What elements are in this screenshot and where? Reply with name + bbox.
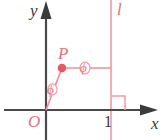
angle-phi-origin-label: ϕ xyxy=(47,83,54,96)
origin-label: O xyxy=(28,113,40,130)
y-axis-label: y xyxy=(30,2,38,19)
angle-phi-segment-label: ϕ xyxy=(80,61,87,74)
x-axis-label: x xyxy=(151,115,159,132)
line-l-label: l xyxy=(117,1,122,18)
coordinate-plane-figure: y x l P O 1 ϕ ϕ xyxy=(0,0,167,140)
right-angle-marker xyxy=(111,96,125,110)
point-p-label: P xyxy=(58,45,68,62)
y-axis-arrowhead xyxy=(41,1,52,19)
x-tick-label-1: 1 xyxy=(104,114,112,130)
point-p-marker xyxy=(58,64,67,73)
